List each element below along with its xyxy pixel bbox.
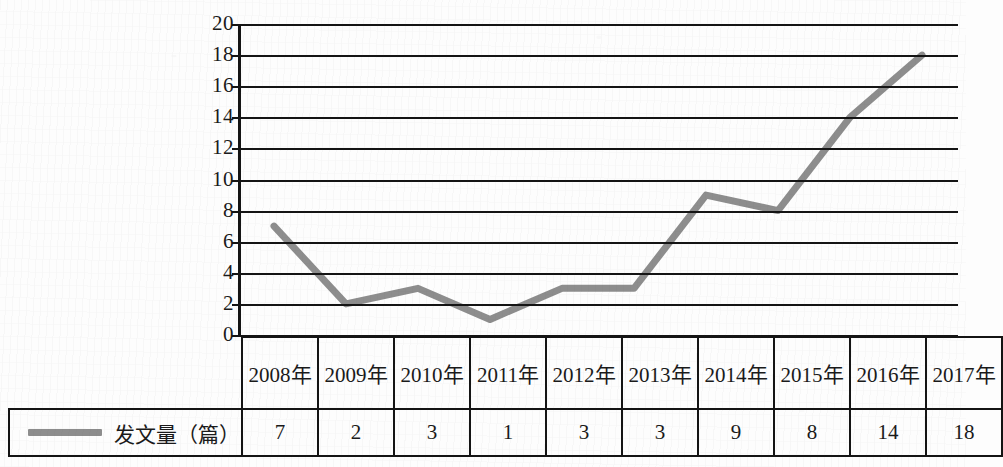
table-cell-value: 14 [850, 409, 926, 456]
table-cell-year: 2010年 [394, 337, 470, 409]
legend-label: 发文量（篇） [114, 418, 240, 448]
y-axis-tick-label: 6 [190, 231, 234, 252]
table-cell-year: 2014年 [698, 337, 774, 409]
data-table: 2008年2009年2010年2011年2012年2013年2014年2015年… [8, 336, 1003, 457]
table-cell-value: 3 [546, 409, 622, 456]
gridline [238, 273, 958, 275]
table-cell-year: 2013年 [622, 337, 698, 409]
y-axis-tick-mark [232, 273, 239, 275]
legend-cell: 发文量（篇） [9, 409, 242, 456]
table-cell-year: 2009年 [318, 337, 394, 409]
y-axis-tick-mark [232, 117, 239, 119]
y-axis-tick-label: 10 [190, 169, 234, 190]
y-axis-tick-label: 18 [190, 44, 234, 65]
y-axis-tick-label: 20 [190, 13, 234, 34]
table-cell-value: 3 [622, 409, 698, 456]
y-axis-tick-mark [232, 24, 239, 26]
plot-area [238, 24, 958, 335]
gridline [238, 148, 958, 150]
y-axis-tick-label: 8 [190, 200, 234, 221]
y-axis-tick-mark [232, 86, 239, 88]
y-axis-tick-mark [232, 211, 239, 213]
y-axis-tick-mark [232, 55, 239, 57]
table-cell-year: 2017年 [926, 337, 1002, 409]
table-cell-value: 3 [394, 409, 470, 456]
y-axis-tick-label: 16 [190, 75, 234, 96]
y-axis-tick-label: 4 [190, 262, 234, 283]
legend-spacer-cell [9, 337, 242, 409]
y-axis-tick-label: 14 [190, 106, 234, 127]
table-cell-value: 7 [242, 409, 318, 456]
table-cell-year: 2012年 [546, 337, 622, 409]
table-cell-value: 1 [470, 409, 546, 456]
table-cell-year: 2016年 [850, 337, 926, 409]
y-axis-tick-mark [232, 148, 239, 150]
table-row-values: 发文量（篇） 723133981418 [9, 409, 1002, 456]
gridline [238, 211, 958, 213]
y-axis-tick-label: 12 [190, 137, 234, 158]
gridline [238, 86, 958, 88]
gridline [238, 117, 958, 119]
gridline [238, 24, 958, 26]
gridline [238, 304, 958, 306]
table-cell-year: 2008年 [242, 337, 318, 409]
y-axis-tick-mark [232, 180, 239, 182]
table-cell-year: 2011年 [470, 337, 546, 409]
y-axis-tick-label: 2 [190, 293, 234, 314]
table-cell-value: 8 [774, 409, 850, 456]
y-axis-tick-mark [232, 304, 239, 306]
y-axis-labels: 20181614121086420 [190, 0, 234, 360]
table-cell-value: 18 [926, 409, 1002, 456]
line-swatch-icon [28, 429, 102, 436]
gridline [238, 55, 958, 57]
table-cell-value: 2 [318, 409, 394, 456]
gridline [238, 180, 958, 182]
y-axis-tick-mark [232, 242, 239, 244]
table-cell-value: 9 [698, 409, 774, 456]
table-row-years: 2008年2009年2010年2011年2012年2013年2014年2015年… [9, 337, 1002, 409]
table-cell-year: 2015年 [774, 337, 850, 409]
gridline [238, 242, 958, 244]
